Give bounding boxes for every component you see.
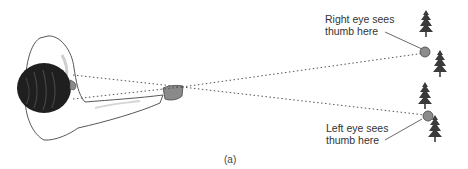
left-eye-label-line1: Left eye sees [326,122,388,134]
tree-icon [433,50,447,77]
left-eye-label-line2: thumb here [326,134,388,146]
left-eye-line-to-background [182,87,425,115]
left-eye-leader-line [385,119,422,140]
tree-icon [418,82,432,109]
right-eye-thumb-dot [420,47,430,57]
right-eye-line-to-thumb [73,75,182,87]
left-eye-label: Left eye sees thumb here [326,122,388,146]
right-eye-line-to-background [182,53,425,87]
binocular-parallax-diagram [0,0,468,169]
right-eye-label: Right eye sees thumb here [325,13,394,37]
right-eye-label-line2: thumb here [325,25,394,37]
tree-icon [419,10,433,37]
right-eye-label-line1: Right eye sees [325,13,394,25]
person-figure [17,36,183,140]
figure-caption: (a) [224,154,236,165]
left-eye-thumb-dot [423,111,433,121]
